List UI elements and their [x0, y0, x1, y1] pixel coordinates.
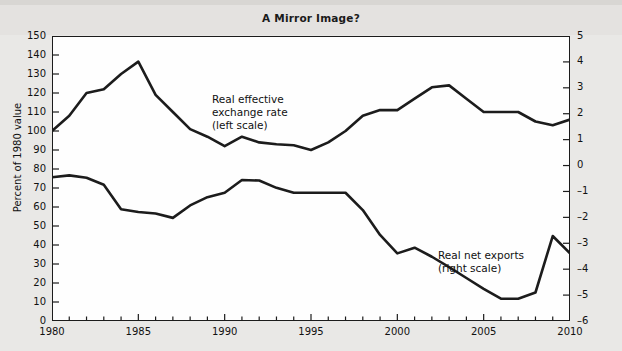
right-tick-label: 4	[577, 55, 603, 66]
left-axis-tick-marks	[52, 36, 59, 321]
left-tick-label: 130	[20, 68, 46, 79]
series-label-net-exports: Real net exports (right scale)	[438, 249, 524, 275]
series-label-exchange-rate: Real effective exchange rate (left scale…	[212, 93, 288, 132]
right-tick-label: –4	[577, 263, 603, 274]
left-tick-label: 80	[20, 163, 46, 174]
right-tick-label: 0	[577, 159, 603, 170]
left-tick-label: 40	[20, 239, 46, 250]
bottom-tick-label: 2010	[550, 326, 590, 337]
left-tick-label: 70	[20, 182, 46, 193]
right-tick-label: 2	[577, 107, 603, 118]
right-tick-label: 3	[577, 81, 603, 92]
right-tick-label: –6	[577, 315, 603, 326]
right-tick-label: 5	[577, 30, 603, 41]
figure-canvas: A Mirror Image? 010203040506070809010011…	[0, 0, 622, 351]
left-tick-label: 110	[20, 106, 46, 117]
right-tick-label: 1	[577, 133, 603, 144]
bottom-axis-tick-marks	[52, 314, 570, 321]
series-line-net-exports	[52, 175, 570, 298]
left-tick-label: 150	[20, 30, 46, 41]
left-tick-label: 20	[20, 277, 46, 288]
page-title: A Mirror Image?	[0, 12, 622, 24]
bottom-tick-label: 1980	[32, 326, 72, 337]
bottom-tick-label: 2000	[377, 326, 417, 337]
bottom-tick-label: 1985	[118, 326, 158, 337]
bottom-tick-label: 1995	[291, 326, 331, 337]
series-line-exchange-rate	[52, 62, 570, 150]
right-tick-label: –3	[577, 237, 603, 248]
bottom-tick-label: 1990	[205, 326, 245, 337]
left-tick-label: 60	[20, 201, 46, 212]
left-tick-label: 50	[20, 220, 46, 231]
left-tick-label: 120	[20, 87, 46, 98]
bottom-tick-label: 2005	[464, 326, 504, 337]
left-tick-label: 90	[20, 144, 46, 155]
left-tick-label: 100	[20, 125, 46, 136]
left-tick-label: 140	[20, 49, 46, 60]
left-tick-label: 10	[20, 296, 46, 307]
left-tick-label: 30	[20, 258, 46, 269]
right-tick-label: –1	[577, 185, 603, 196]
left-axis-title: Percent of 1980 value	[12, 93, 23, 223]
left-tick-label: 0	[20, 315, 46, 326]
right-tick-label: –2	[577, 211, 603, 222]
right-tick-label: –5	[577, 289, 603, 300]
right-axis-tick-marks	[563, 36, 570, 321]
plot-svg	[52, 36, 570, 321]
chart-figure: A Mirror Image? 010203040506070809010011…	[0, 0, 622, 351]
